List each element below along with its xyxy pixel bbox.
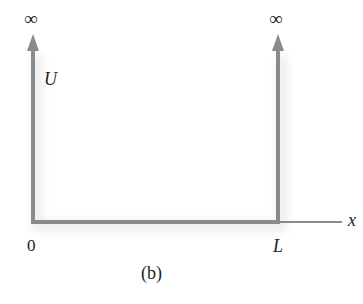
x-axis-label: x bbox=[348, 211, 356, 229]
origin-label: 0 bbox=[27, 237, 36, 254]
infinity-label-left: ∞ bbox=[24, 9, 38, 28]
y-axis-label: U bbox=[44, 70, 57, 88]
well-graphic bbox=[0, 0, 363, 304]
right-arrow-icon bbox=[272, 34, 284, 51]
left-arrow-icon bbox=[27, 34, 39, 51]
potential-well-line bbox=[33, 46, 278, 222]
length-label: L bbox=[273, 237, 283, 255]
well-shadow bbox=[37, 55, 282, 226]
infinite-square-well-diagram: ∞ ∞ U x 0 L (b) bbox=[0, 0, 363, 304]
infinity-label-right: ∞ bbox=[269, 9, 283, 28]
figure-caption: (b) bbox=[141, 264, 162, 282]
